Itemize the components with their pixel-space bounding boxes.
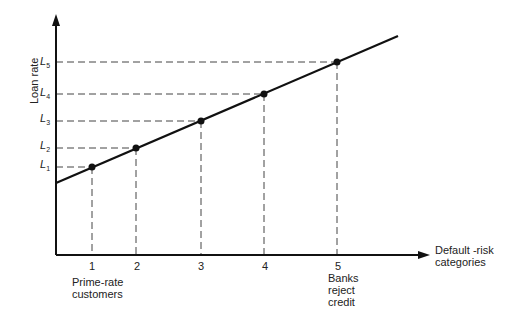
y-axis-arrow-icon <box>52 14 60 26</box>
guide-lines <box>56 62 337 255</box>
x-axis-arrow-icon <box>418 251 430 259</box>
y-tick-l5: L5 <box>40 55 50 69</box>
x-tick-2: 2 <box>127 260 147 272</box>
plot-area <box>0 0 516 322</box>
y-tick-l4: L4 <box>40 86 50 100</box>
x-tick-3: 3 <box>191 260 211 272</box>
y-axis-label: Loan rate <box>28 58 40 104</box>
annotation-prime-rate: Prime-rate customers <box>72 276 123 300</box>
loan-rate-line <box>56 36 398 183</box>
chart: Loan rate L1 L2 L3 L4 L5 1 2 3 4 5 Prime… <box>0 0 516 322</box>
x-tick-4: 4 <box>255 260 275 272</box>
annotation-banks-reject: Banks reject credit <box>328 272 359 308</box>
x-tick-5: 5 <box>328 260 348 272</box>
x-tick-1: 1 <box>82 260 102 272</box>
x-axis-label: Default -risk categories <box>435 244 494 268</box>
y-tick-l1: L1 <box>40 158 50 172</box>
y-tick-l2: L2 <box>40 139 50 153</box>
y-tick-l3: L3 <box>40 112 50 126</box>
